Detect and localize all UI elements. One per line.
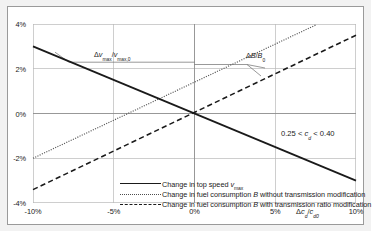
cd-range-symbol-sub: d: [308, 135, 311, 141]
legend-swatch-dashed-line-icon: [118, 200, 162, 210]
chart-panel: 4% 2% 0% -2% -4% -10% -5% 0% 5% 10% Δcd/…: [7, 6, 364, 225]
cd-range-low: 0.25 <: [281, 129, 302, 138]
y-tick-label: -2%: [0, 154, 26, 163]
annotation-vmax-sub2: max,0: [117, 57, 130, 62]
legend-label-top-speed: Change in top speed vmax: [162, 180, 243, 189]
annotation-fuel-sub: 0: [262, 58, 265, 63]
legend-label-fuel-with-transmission-post: with transmission ratio modification: [258, 200, 371, 209]
plot-area: 4% 2% 0% -2% -4% -10% -5% 0% 5% 10% Δcd/…: [33, 24, 356, 203]
legend-item-fuel-no-transmission: Change in fuel consumption B without tra…: [118, 189, 371, 199]
legend-item-fuel-with-transmission: Change in fuel consumption B with transm…: [118, 200, 371, 210]
annotation-vmax-sub1: max: [102, 57, 111, 62]
legend-label-fuel-no-transmission: Change in fuel consumption B without tra…: [162, 190, 365, 199]
y-tick-label: 4%: [0, 20, 26, 29]
annotation-cd-range: 0.25 < cd < 0.40: [281, 129, 335, 138]
leader-line-b: [195, 65, 266, 77]
legend-swatch-dotted-line-icon: [118, 190, 162, 200]
legend-label-fuel-no-transmission-pre: Change in fuel consumption: [162, 190, 253, 199]
legend-label-top-speed-sub: max: [234, 186, 243, 191]
legend-item-top-speed: Change in top speed vmax: [118, 179, 371, 189]
annotation-vmax: Δvmax/vmax,0: [94, 50, 131, 59]
plot-canvas: [33, 24, 356, 203]
annotation-fuel: ΔB/B0: [246, 51, 265, 60]
legend-label-fuel-no-transmission-post: without transmission modification: [258, 190, 365, 199]
legend-swatch-solid-line-icon: [118, 179, 162, 189]
legend-label-top-speed-pre: Change in top speed: [162, 180, 230, 189]
cd-range-high: < 0.40: [313, 129, 334, 138]
y-tick-label: 0%: [0, 109, 26, 118]
legend-label-fuel-with-transmission: Change in fuel consumption B with transm…: [162, 200, 371, 209]
legend-label-fuel-with-transmission-pre: Change in fuel consumption: [162, 200, 253, 209]
legend: Change in top speed vmax Change in fuel …: [118, 179, 371, 210]
series-fuel-no-transmission: [33, 25, 317, 159]
x-tick-label: -10%: [10, 207, 56, 216]
x-axis-title-sub-d0: d0: [313, 213, 319, 219]
y-tick-label: 2%: [0, 64, 26, 73]
